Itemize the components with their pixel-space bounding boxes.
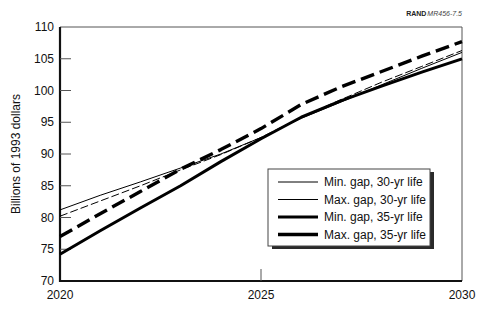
y-tick-label: 105 <box>34 52 54 66</box>
y-tick-label: 70 <box>41 274 55 288</box>
legend-label: Max. gap, 35-yr life <box>324 228 426 242</box>
y-tick-label: 90 <box>41 147 55 161</box>
legend: Min. gap, 30-yr lifeMax. gap, 30-yr life… <box>268 169 434 249</box>
legend-label: Min. gap, 35-yr life <box>324 210 423 224</box>
x-tick-label: 2030 <box>449 288 476 302</box>
y-tick-label: 85 <box>41 179 55 193</box>
x-tick-label: 2020 <box>47 288 74 302</box>
y-tick-label: 75 <box>41 242 55 256</box>
x-axis-ticks: 202020252030 <box>47 269 476 302</box>
legend-label: Min. gap, 30-yr life <box>324 175 423 189</box>
y-tick-label: 95 <box>41 115 55 129</box>
line-chart: RAND MR456-7.5 Billions of 1993 dollars … <box>0 0 486 311</box>
y-tick-label: 80 <box>41 211 55 225</box>
y-tick-label: 110 <box>35 20 54 34</box>
y-tick-label: 100 <box>34 84 54 98</box>
legend-label: Max. gap, 30-yr life <box>324 193 426 207</box>
credit-org: RAND <box>406 10 426 17</box>
credit-id: MR456-7.5 <box>427 10 462 17</box>
y-axis-ticks: 707580859095100105110 <box>34 20 71 288</box>
y-axis-title: Billions of 1993 dollars <box>9 94 23 214</box>
x-tick-label: 2025 <box>248 288 275 302</box>
